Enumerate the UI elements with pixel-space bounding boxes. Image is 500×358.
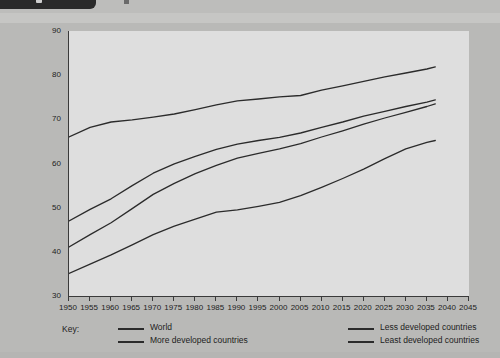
y-tick-label: 90 (37, 26, 61, 35)
y-tick-label: 30 (37, 291, 61, 300)
legend-label: Less developed countries (380, 322, 476, 332)
legend-label: World (150, 322, 172, 332)
x-tick-mark (194, 297, 195, 301)
x-tick-mark (152, 297, 153, 301)
x-tick-mark (89, 297, 90, 301)
x-tick-mark (215, 297, 216, 301)
x-tick-mark (342, 297, 343, 301)
y-tick-label: 80 (37, 70, 61, 79)
x-tick-mark (321, 297, 322, 301)
x-tick-mark (447, 297, 448, 301)
series-line-more-developed-countries (69, 67, 435, 137)
x-tick-mark (236, 297, 237, 301)
y-tick-label: 40 (37, 247, 61, 256)
legend-line-swatch (348, 341, 374, 343)
legend-label: Least developed countries (380, 335, 479, 345)
y-tick-label: 70 (37, 114, 61, 123)
x-tick-mark (405, 297, 406, 301)
x-tick-mark (468, 297, 469, 301)
legend-label: More developed countries (150, 335, 248, 345)
series-lines (69, 31, 469, 296)
paper-bottom-margin (0, 352, 500, 358)
series-line-least-developed-countries (69, 141, 435, 274)
x-tick-mark (279, 297, 280, 301)
legend-title: Key: (62, 324, 79, 334)
x-tick-mark (426, 297, 427, 301)
y-tick-label: 60 (37, 159, 61, 168)
legend-line-swatch (118, 328, 144, 330)
x-tick-mark (173, 297, 174, 301)
x-tick-mark (110, 297, 111, 301)
x-tick-mark (300, 297, 301, 301)
y-tick-label: 50 (37, 203, 61, 212)
x-tick-label: 2045 (455, 303, 481, 312)
x-tick-mark (131, 297, 132, 301)
x-tick-mark (68, 297, 69, 301)
plot-area (68, 31, 469, 297)
series-line-less-developed-countries (69, 104, 435, 247)
x-tick-mark (257, 297, 258, 301)
x-tick-mark (363, 297, 364, 301)
chart-legend: Key: WorldMore developed countriesLess d… (0, 322, 500, 356)
line-chart-figure: Age in years 30405060708090 195019551960… (0, 0, 500, 358)
legend-line-swatch (348, 328, 374, 330)
legend-line-swatch (118, 341, 144, 343)
x-tick-mark (384, 297, 385, 301)
